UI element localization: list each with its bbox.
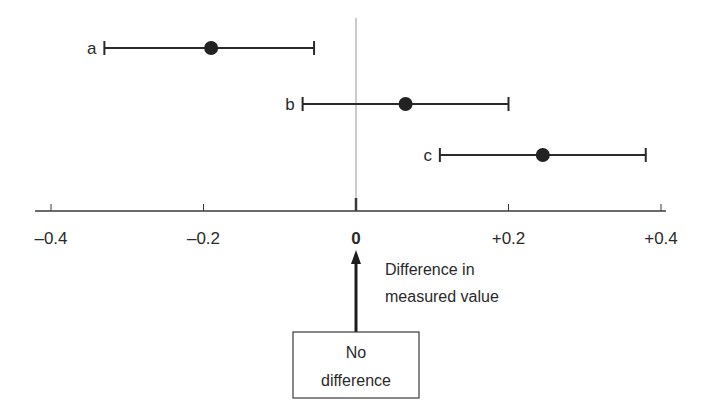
x-tick-label: –0.4	[34, 229, 67, 248]
x-axis-ticks	[51, 198, 661, 211]
x-axis-tick-labels: –0.4–0.20+0.2+0.4	[34, 229, 677, 248]
row-label: b	[285, 95, 294, 114]
row-label: c	[423, 146, 432, 165]
point-estimate-dot	[399, 97, 413, 111]
point-estimate-dot	[536, 148, 550, 162]
row-label: a	[87, 39, 97, 58]
no-difference-label-line1: No	[346, 344, 367, 361]
arrowhead-icon	[351, 250, 361, 264]
x-tick-label: +0.4	[644, 229, 678, 248]
estimate-rows: abc	[87, 39, 646, 165]
axis-title-line1: Difference in	[385, 261, 475, 278]
estimate-row-a: a	[87, 39, 314, 58]
axis-title-line2: measured value	[385, 288, 499, 305]
forest-plot: –0.4–0.20+0.2+0.4 abc Difference in meas…	[0, 0, 707, 418]
point-estimate-dot	[204, 41, 218, 55]
estimate-row-c: c	[423, 146, 645, 165]
x-tick-label: –0.2	[187, 229, 220, 248]
x-tick-label: 0	[351, 229, 360, 248]
no-difference-label-line2: difference	[321, 372, 391, 389]
estimate-row-b: b	[285, 95, 508, 114]
x-tick-label: +0.2	[492, 229, 526, 248]
